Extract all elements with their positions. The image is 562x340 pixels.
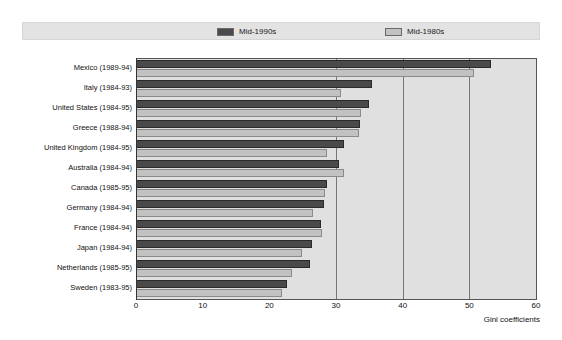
bar-mid-1980s <box>136 249 302 257</box>
bar-mid-1990s <box>136 60 491 68</box>
category-label: Japan (1984-94) <box>2 244 132 252</box>
x-axis-title: Gini coefficients <box>440 316 540 324</box>
bar-mid-1990s <box>136 260 310 268</box>
category-label: France (1984-94) <box>2 224 132 232</box>
x-axis-tick-labels: 0102030405060 <box>136 302 536 314</box>
y-axis-line <box>136 58 137 300</box>
category-axis-labels: Mexico (1989-94)Italy (1984-93)United St… <box>0 58 132 298</box>
gini-coefficients-bar-chart: Mid-1990s Mid-1980s Mexico (1989-94)Ital… <box>0 0 562 340</box>
x-tick-label: 0 <box>134 302 138 310</box>
bar-group <box>136 99 536 119</box>
x-tick-label: 20 <box>265 302 274 310</box>
legend-label-mid-1990s: Mid-1990s <box>239 28 276 36</box>
legend-swatch-mid-1990s <box>217 28 234 36</box>
bar-group <box>136 79 536 99</box>
category-label: Greece (1988-94) <box>2 124 132 132</box>
category-label: Canada (1985-95) <box>2 184 132 192</box>
legend-entry-mid-1980s: Mid-1980s <box>385 25 444 39</box>
bar-mid-1990s <box>136 200 324 208</box>
bar-mid-1980s <box>136 129 359 137</box>
bar-group <box>136 159 536 179</box>
category-label: United Kingdom (1984-95) <box>2 144 132 152</box>
bar-group <box>136 279 536 299</box>
bar-group <box>136 239 536 259</box>
bar-mid-1990s <box>136 80 372 88</box>
legend-label-mid-1980s: Mid-1980s <box>407 28 444 36</box>
category-label: Italy (1984-93) <box>2 84 132 92</box>
legend-entry-mid-1990s: Mid-1990s <box>217 25 276 39</box>
bar-mid-1980s <box>136 149 327 157</box>
x-tick-label: 60 <box>532 302 541 310</box>
bar-mid-1990s <box>136 240 312 248</box>
bar-group <box>136 119 536 139</box>
bar-group <box>136 139 536 159</box>
bar-mid-1990s <box>136 140 344 148</box>
plot-area <box>136 58 537 300</box>
bar-group <box>136 219 536 239</box>
x-tick-label: 30 <box>332 302 341 310</box>
chart-legend: Mid-1990s Mid-1980s <box>22 22 540 40</box>
bar-mid-1980s <box>136 209 313 217</box>
bar-group <box>136 259 536 279</box>
category-label: Mexico (1989-94) <box>2 64 132 72</box>
bar-mid-1980s <box>136 229 322 237</box>
bar-mid-1990s <box>136 120 360 128</box>
bar-group <box>136 59 536 79</box>
category-label: United States (1984-95) <box>2 104 132 112</box>
bar-mid-1980s <box>136 269 292 277</box>
legend-swatch-mid-1980s <box>385 28 402 36</box>
bar-mid-1980s <box>136 289 282 297</box>
bar-mid-1990s <box>136 220 321 228</box>
bar-mid-1980s <box>136 189 325 197</box>
category-label: Australia (1984-94) <box>2 164 132 172</box>
bar-mid-1990s <box>136 100 369 108</box>
bar-mid-1980s <box>136 109 361 117</box>
bar-group <box>136 179 536 199</box>
category-label: Germany (1984-94) <box>2 204 132 212</box>
category-label: Sweden (1983-95) <box>2 284 132 292</box>
x-tick-label: 10 <box>198 302 207 310</box>
category-label: Netherlands (1985-95) <box>2 264 132 272</box>
x-tick-label: 40 <box>398 302 407 310</box>
bar-group <box>136 199 536 219</box>
x-tick-label: 50 <box>465 302 474 310</box>
bar-mid-1980s <box>136 69 474 77</box>
bar-mid-1980s <box>136 169 344 177</box>
bar-mid-1990s <box>136 180 327 188</box>
bar-mid-1990s <box>136 160 339 168</box>
bar-mid-1980s <box>136 89 341 97</box>
bar-mid-1990s <box>136 280 287 288</box>
